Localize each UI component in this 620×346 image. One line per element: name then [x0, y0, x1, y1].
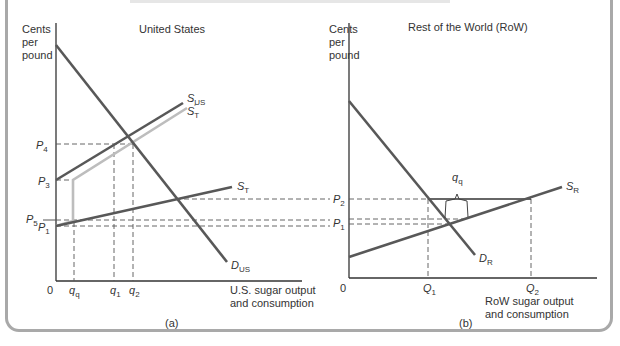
- figure-frame: [5, 0, 613, 332]
- sugar-quota-figure: Cents per pound United States P4 P3 P5 P…: [0, 0, 620, 346]
